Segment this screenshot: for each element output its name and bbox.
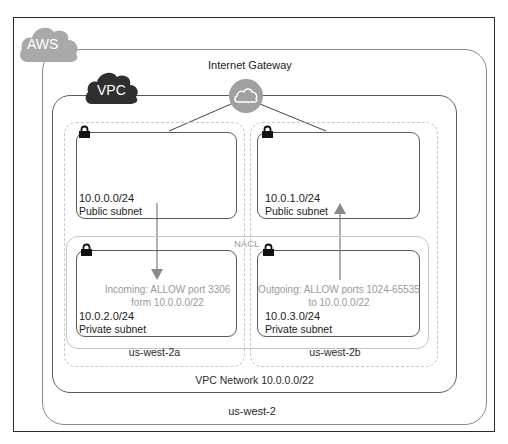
lock-icon — [261, 126, 274, 138]
internet-gateway-label: Internet Gateway — [208, 59, 292, 72]
nacl-label: NACL — [234, 237, 259, 250]
outgoing-rule-line2: to 10.0.0.0/22 — [258, 296, 420, 309]
private-subnet-a-cidr: 10.0.2.0/24 — [79, 310, 134, 323]
public-subnet-a-cidr: 10.0.0.0/24 — [79, 192, 134, 205]
aws-badge-label: AWS — [27, 38, 58, 51]
internet-gateway-cloud-icon[interactable] — [228, 78, 264, 114]
public-subnet-b-label: Public subnet — [265, 205, 328, 218]
private-subnet-b-cidr: 10.0.3.0/24 — [265, 310, 320, 323]
private-subnet-b-label: Private subnet — [265, 323, 332, 336]
lock-icon — [78, 126, 91, 138]
lock-icon — [80, 244, 93, 256]
incoming-rule: Incoming: ALLOW port 3306 form 10.0.0.0/… — [100, 283, 235, 309]
public-subnet-b-cidr: 10.0.1.0/24 — [265, 192, 320, 205]
incoming-rule-line1: Incoming: ALLOW port 3306 — [100, 283, 235, 296]
lock-icon — [262, 244, 275, 256]
vpc-badge-label: VPC — [97, 84, 126, 97]
availability-zone-b-label: us-west-2b — [250, 346, 420, 358]
public-subnet-a-label: Public subnet — [79, 205, 142, 218]
incoming-rule-line2: form 10.0.0.0/22 — [100, 296, 235, 309]
region-label: us-west-2 — [42, 405, 462, 417]
private-subnet-a-label: Private subnet — [79, 323, 146, 336]
outgoing-rule: Outgoing: ALLOW ports 1024-65535 to 10.0… — [258, 283, 420, 309]
outgoing-rule-line1: Outgoing: ALLOW ports 1024-65535 — [258, 283, 420, 296]
vpc-network-label: VPC Network 10.0.0.0/22 — [52, 374, 457, 386]
availability-zone-a-label: us-west-2a — [64, 346, 245, 358]
